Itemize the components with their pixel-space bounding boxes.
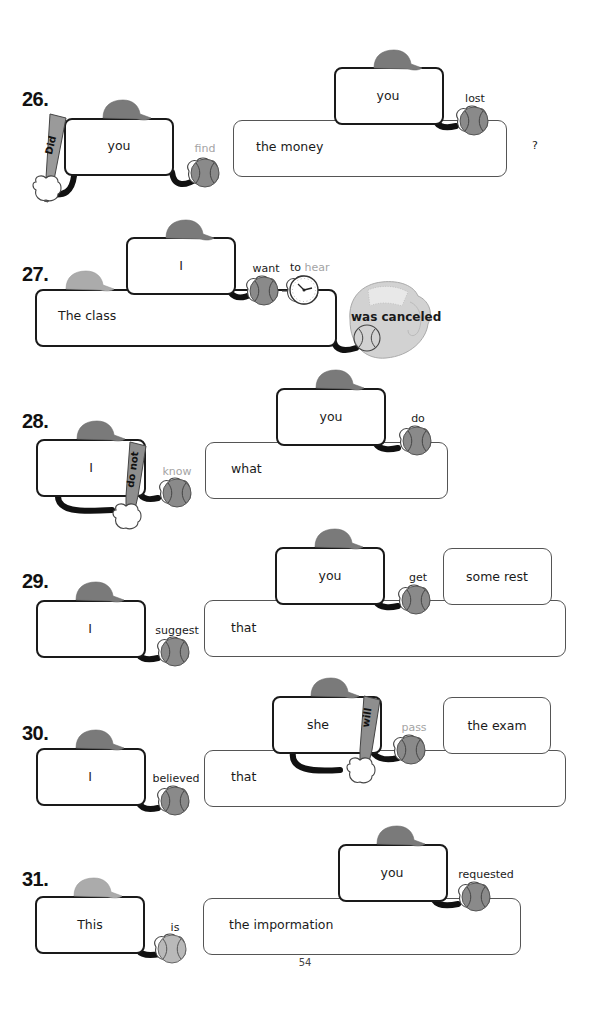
cap-icon	[375, 826, 427, 848]
clause-subject-text: you	[381, 865, 404, 880]
glove-ball-icon	[476, 897, 477, 898]
arm-connector	[0, 0, 593, 1000]
clause-verb-text: requested	[458, 868, 514, 881]
page-number: 54	[299, 957, 312, 968]
